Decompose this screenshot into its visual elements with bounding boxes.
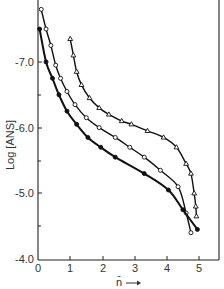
chart: -7.0 -6.0 -5.0 -4.0 0 1 2 3 4 5 Log [ANS… bbox=[0, 0, 224, 289]
data-point-open-triangle bbox=[145, 128, 150, 132]
x-tick-label: 3 bbox=[132, 262, 138, 274]
y-tick-label: -6.0 bbox=[15, 122, 34, 134]
data-point-open-circle bbox=[128, 145, 132, 149]
y-axis-title: Log [ANS] bbox=[4, 120, 16, 170]
data-point-open-circle bbox=[39, 7, 43, 11]
data-point-filled-circle bbox=[99, 145, 103, 149]
data-point-open-triangle bbox=[194, 214, 199, 218]
data-point-filled-circle bbox=[166, 188, 170, 192]
data-point-filled-circle bbox=[44, 60, 48, 64]
data-point-filled-circle bbox=[142, 172, 146, 176]
x-tick-label: 2 bbox=[100, 262, 106, 274]
data-point-filled-circle bbox=[38, 27, 42, 31]
data-point-open-circle bbox=[59, 76, 63, 80]
x-tick-label: 0 bbox=[35, 262, 41, 274]
series-layer bbox=[38, 7, 200, 234]
data-point-open-triangle bbox=[189, 171, 194, 175]
data-point-filled-circle bbox=[181, 208, 185, 212]
data-point-open-triangle bbox=[106, 112, 111, 116]
data-point-open-circle bbox=[54, 63, 58, 67]
x-tick-label: 5 bbox=[196, 262, 202, 274]
data-point-open-triangle bbox=[129, 122, 134, 126]
data-point-open-circle bbox=[189, 231, 193, 235]
data-point-open-circle bbox=[49, 43, 53, 47]
series-line-open-triangle bbox=[70, 39, 196, 216]
data-point-open-circle bbox=[176, 185, 180, 189]
data-point-open-triangle bbox=[161, 135, 166, 139]
data-point-open-triangle bbox=[74, 69, 79, 73]
data-point-open-triangle bbox=[192, 191, 197, 195]
data-point-open-circle bbox=[84, 116, 88, 120]
series-line-open-circle bbox=[41, 9, 191, 232]
data-point-filled-circle bbox=[50, 76, 54, 80]
y-tick-label: -7.0 bbox=[15, 56, 34, 68]
x-tick-label: 1 bbox=[67, 262, 73, 274]
data-point-filled-circle bbox=[113, 155, 117, 159]
series-line-filled-circle bbox=[40, 29, 198, 229]
data-point-open-triangle bbox=[68, 36, 73, 40]
data-point-open-circle bbox=[142, 155, 146, 159]
x-tick-label: 4 bbox=[164, 262, 170, 274]
data-point-open-circle bbox=[113, 135, 117, 139]
data-point-filled-circle bbox=[75, 122, 79, 126]
data-point-open-circle bbox=[65, 89, 69, 93]
arrow-right-icon bbox=[126, 281, 141, 286]
data-point-filled-circle bbox=[57, 93, 61, 97]
x-axis-title: n̄ bbox=[116, 276, 122, 288]
data-point-filled-circle bbox=[195, 227, 199, 231]
data-point-open-circle bbox=[44, 27, 48, 31]
data-point-filled-circle bbox=[86, 135, 90, 139]
y-tick-label: -4.0 bbox=[15, 253, 34, 265]
data-point-open-circle bbox=[73, 103, 77, 107]
data-point-open-triangle bbox=[71, 53, 76, 57]
data-point-filled-circle bbox=[65, 109, 69, 113]
data-point-open-triangle bbox=[119, 118, 124, 122]
data-point-open-triangle bbox=[193, 204, 198, 208]
y-tick-label: -5.0 bbox=[15, 187, 34, 199]
data-point-open-circle bbox=[97, 126, 101, 130]
data-point-open-circle bbox=[158, 168, 162, 172]
